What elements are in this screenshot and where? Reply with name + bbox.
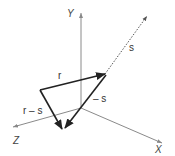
s-label: s <box>129 42 134 53</box>
neg-s-label: – s <box>93 93 106 104</box>
x-axis <box>81 108 162 143</box>
x-axis-label: X <box>154 144 162 155</box>
y-axis-label: Y <box>67 8 75 19</box>
r-minus-s-label: r – s <box>23 105 42 116</box>
r-label: r <box>58 70 62 81</box>
r-minus-s-vector <box>40 90 62 129</box>
vector-diagram: Y Z X s r – s r – s <box>0 0 175 156</box>
s-vector <box>105 16 147 74</box>
z-axis-label: Z <box>12 135 20 146</box>
